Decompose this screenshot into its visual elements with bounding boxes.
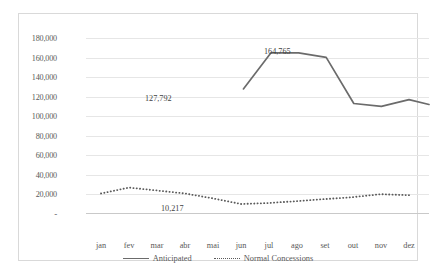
y-axis-tick-label: 40,000: [0, 171, 57, 180]
series-line-anticipated: [243, 53, 429, 107]
y-axis-tick-label: 20,000: [0, 190, 57, 199]
legend-item-anticipated[interactable]: Anticipated: [123, 254, 192, 263]
legend-label: Anticipated: [153, 254, 192, 263]
legend-swatch-solid-line-icon: [123, 258, 149, 259]
y-axis-tick-label: 140,000: [0, 73, 57, 82]
y-axis-tick-label: 80,000: [0, 132, 57, 141]
y-axis-tick-label: 160,000: [0, 54, 57, 63]
data-label-anticipated-jul: 164,765: [264, 47, 291, 56]
y-axis-tick-label-zero: -: [0, 209, 57, 219]
plot-area: 180,000 160,000 140,000 120,000 100,000 …: [86, 38, 429, 214]
x-axis-tick-label: dez: [389, 241, 429, 250]
y-axis-tick-label: 120,000: [0, 93, 57, 102]
data-label-normal-concessions-abr: 10,217: [161, 204, 184, 213]
chart-legend: Anticipated Normal Concessions: [19, 254, 417, 263]
data-label-anticipated-jun: 127,792: [145, 94, 172, 103]
series-line-normal-concessions: [101, 188, 409, 204]
legend-label: Normal Concessions: [244, 254, 314, 263]
series-layer: [86, 38, 429, 214]
y-axis-tick-label: 180,000: [0, 34, 57, 43]
chart-container: 180,000 160,000 140,000 120,000 100,000 …: [0, 0, 435, 276]
y-axis-tick-label: 60,000: [0, 151, 57, 160]
chart-frame: 180,000 160,000 140,000 120,000 100,000 …: [18, 13, 418, 261]
legend-item-normal-concessions[interactable]: Normal Concessions: [214, 254, 314, 263]
y-axis-tick-label: 100,000: [0, 112, 57, 121]
legend-swatch-dotted-line-icon: [214, 258, 240, 259]
